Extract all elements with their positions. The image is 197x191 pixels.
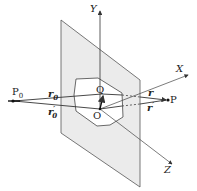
point-p-label: P [170,95,177,105]
point-p0-label: P0 [12,87,23,100]
diagram-svg [0,0,197,191]
vector-r0-label: r0 [48,89,58,101]
x-axis-label: X [176,64,183,74]
vector-r-prime-label: r′ [147,101,154,113]
vector-r0-prime-label: r′0 [48,105,57,119]
y-axis-label: Y [90,4,97,14]
diagram: Y X Z P0 P Q O r0 r′0 r r′ [0,0,197,191]
point-q-label: Q [96,85,104,95]
vector-r-label: r [148,88,153,98]
point-o-label: O [93,111,101,121]
z-axis-label: Z [164,165,171,175]
